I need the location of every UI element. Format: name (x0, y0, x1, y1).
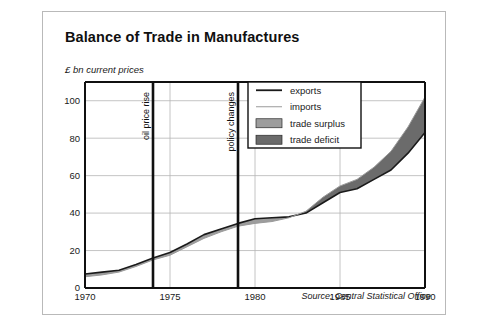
chart-subtitle: £ bn current prices (65, 64, 144, 75)
page-title: Balance of Trade in Manufactures (65, 29, 299, 45)
figure-frame: Balance of Trade in Manufactures £ bn cu… (42, 11, 446, 315)
source-note: Source: Central Statistical Office (301, 291, 431, 301)
